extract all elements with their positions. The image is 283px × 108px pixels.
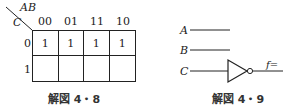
circuit-caption: 解図 4・9: [212, 90, 264, 106]
kmap-cell: 1: [84, 31, 110, 56]
input-label-c: C: [180, 66, 188, 77]
kmap-cell: [33, 56, 59, 81]
kmap-cell: [59, 56, 85, 81]
kmap-cell: [110, 56, 136, 81]
kmap-corner-c: C: [13, 17, 21, 28]
kmap-row-header: 0: [24, 38, 31, 49]
kmap-cell: 1: [33, 31, 59, 56]
kmap-corner-ab: AB: [20, 2, 36, 13]
input-label-a: A: [180, 25, 188, 36]
output-label: f=: [266, 59, 278, 70]
kmap-col-header: 00: [38, 16, 52, 27]
not-gate-icon: [228, 60, 247, 82]
inverter-bubble-icon: [247, 68, 252, 73]
kmap-cell: 1: [59, 31, 85, 56]
kmap-col-header: 10: [116, 16, 130, 27]
kmap-row-header: 1: [24, 64, 31, 75]
karnaugh-map: 1 1 1 1: [32, 30, 136, 82]
kmap-cell: [84, 56, 110, 81]
kmap-col-header: 11: [90, 16, 104, 27]
kmap-cell: 1: [110, 31, 136, 56]
kmap-col-header: 01: [64, 16, 78, 27]
kmap-caption: 解図 4・8: [48, 90, 100, 106]
input-label-b: B: [180, 45, 188, 56]
